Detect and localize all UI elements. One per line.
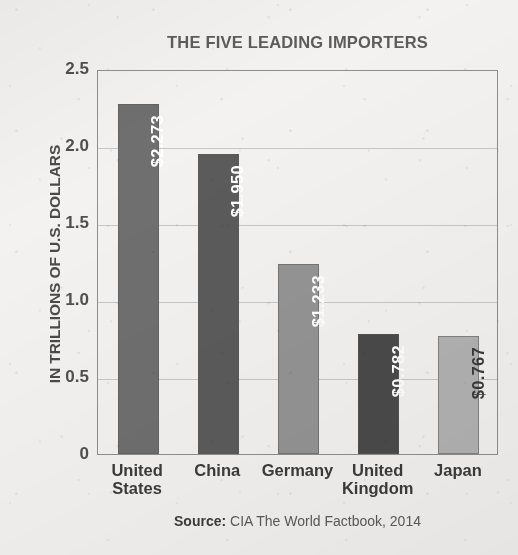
- x-category-label: Germany: [257, 461, 337, 479]
- bar: $0.782: [358, 334, 399, 454]
- y-tick-label-text: 2.0: [65, 136, 89, 156]
- x-category-label-line: States: [97, 479, 177, 497]
- bar-value-text: $1.233: [308, 275, 327, 327]
- bar-value-label: $2.273: [138, 89, 157, 141]
- source-text: CIA The World Factbook, 2014: [226, 513, 421, 529]
- bar-value-text: $0.782: [388, 345, 407, 397]
- x-category-label-line: China: [177, 461, 257, 479]
- y-tick-label-text: 1.0: [65, 290, 89, 310]
- y-tick-label-text: 0.5: [65, 367, 89, 387]
- bar-chart-figure: THE FIVE LEADING IMPORTERS IN TRILLIONS …: [0, 0, 518, 555]
- x-category-label-line: Kingdom: [338, 479, 418, 497]
- source-note: Source: CIA The World Factbook, 2014: [97, 513, 498, 529]
- bar-value-label: $1.233: [299, 249, 318, 301]
- x-category-label-line: Japan: [418, 461, 498, 479]
- y-tick-label-text: 2.5: [65, 59, 89, 79]
- x-category-label-line: United: [338, 461, 418, 479]
- bar-value-text: $0.767: [468, 347, 487, 399]
- x-category-label: China: [177, 461, 257, 479]
- source-label: Source:: [174, 513, 226, 529]
- x-category-label-line: Germany: [257, 461, 337, 479]
- chart-title: THE FIVE LEADING IMPORTERS: [97, 33, 498, 52]
- bar-value-text: $1.950: [228, 165, 247, 217]
- bar-value-label: $1.950: [218, 139, 237, 191]
- bar-value-label: $0.767: [459, 321, 478, 373]
- y-tick-label-text: 0: [80, 444, 89, 464]
- bar: $1.950: [198, 154, 239, 454]
- bar-value-text: $2.273: [148, 115, 167, 167]
- plot-area: $2.273$1.950$1.233$0.782$0.767: [97, 70, 498, 455]
- y-tick-label-text: 1.5: [65, 213, 89, 233]
- y-axis-title: IN TRILLIONS OF U.S. DOLLARS: [46, 99, 64, 429]
- x-category-label-line: United: [97, 461, 177, 479]
- bar: $1.233: [278, 264, 319, 454]
- bar-value-label: $0.782: [379, 318, 398, 370]
- bar: $0.767: [438, 336, 479, 454]
- x-category-label: UnitedKingdom: [338, 461, 418, 498]
- x-category-label: UnitedStates: [97, 461, 177, 498]
- bar: $2.273: [118, 104, 159, 454]
- x-category-label: Japan: [418, 461, 498, 479]
